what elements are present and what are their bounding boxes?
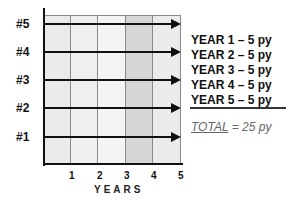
- y-label-1: #1: [16, 130, 29, 144]
- y-label-2: #2: [16, 101, 29, 115]
- grid-column-4-highlighted: [126, 15, 153, 164]
- y-label-4: #4: [16, 45, 29, 59]
- grid: [44, 15, 181, 164]
- grid-top-border: [44, 15, 181, 16]
- x-tick-2: 2: [97, 170, 103, 181]
- row-arrow-2: [44, 107, 172, 109]
- x-axis-title: YEARS: [94, 184, 143, 195]
- row-arrow-4: [44, 51, 172, 53]
- summary-year-5: YEAR 5 – 5 py: [191, 93, 272, 107]
- summary-year-3: YEAR 3 – 5 py: [191, 63, 272, 77]
- row-arrow-3: [44, 79, 172, 81]
- summary-year-4: YEAR 4 – 5 py: [191, 78, 272, 92]
- y-label-3: #3: [16, 73, 29, 87]
- x-tick-4: 4: [151, 170, 157, 181]
- row-arrow-1: [44, 136, 172, 138]
- row-arrow-5: [44, 23, 172, 25]
- total-line: TOTAL = 25 py: [191, 120, 271, 134]
- y-label-5: #5: [16, 17, 29, 31]
- summary-divider: [190, 107, 286, 109]
- x-axis: [43, 163, 183, 165]
- total-value: = 25 py: [228, 120, 271, 134]
- grid-column-3: [98, 15, 126, 164]
- grid-column-1: [44, 15, 71, 164]
- total-word: TOTAL: [191, 120, 228, 134]
- y-axis: [43, 8, 45, 166]
- x-tick-1: 1: [69, 170, 75, 181]
- x-tick-5: 5: [178, 170, 184, 181]
- summary-year-1: YEAR 1 – 5 py: [191, 33, 272, 47]
- summary-year-2: YEAR 2 – 5 py: [191, 48, 272, 62]
- x-tick-3: 3: [124, 170, 130, 181]
- grid-column-2: [71, 15, 98, 164]
